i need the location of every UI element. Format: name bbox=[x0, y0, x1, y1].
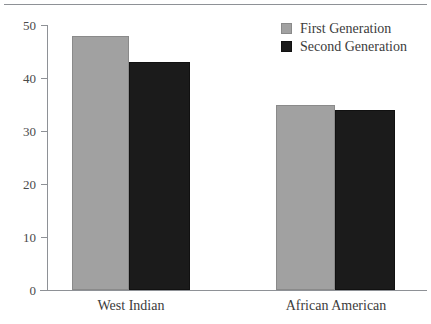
top-divider-rule bbox=[4, 4, 427, 5]
x-axis-label-african-american: African American bbox=[265, 298, 407, 314]
legend: First Generation Second Generation bbox=[281, 19, 407, 55]
y-axis-tick-50 bbox=[41, 25, 48, 26]
legend-label-first-generation: First Generation bbox=[300, 21, 391, 36]
bar-african-american-first-generation[interactable] bbox=[276, 105, 335, 290]
y-axis-label-10: 10 bbox=[0, 231, 36, 244]
legend-item-first-generation[interactable]: First Generation bbox=[281, 19, 407, 37]
y-axis-label-20: 20 bbox=[0, 178, 36, 191]
bar-chart: 0 10 20 30 40 50 West Indian African Ame… bbox=[0, 0, 431, 324]
bar-west-indian-first-generation[interactable] bbox=[72, 36, 129, 290]
y-axis-tick-40 bbox=[41, 78, 48, 79]
x-axis-label-west-indian: West Indian bbox=[61, 298, 201, 314]
bar-west-indian-second-generation[interactable] bbox=[129, 62, 190, 290]
legend-item-second-generation[interactable]: Second Generation bbox=[281, 37, 407, 55]
y-axis-label-40: 40 bbox=[0, 72, 36, 85]
legend-swatch-second-generation-icon bbox=[281, 41, 292, 52]
y-axis-tick-10 bbox=[41, 237, 48, 238]
y-axis-tick-20 bbox=[41, 184, 48, 185]
y-axis-tick-0 bbox=[41, 290, 48, 291]
legend-swatch-first-generation-icon bbox=[281, 23, 292, 34]
bar-african-american-second-generation[interactable] bbox=[335, 110, 395, 290]
y-axis-label-30: 30 bbox=[0, 125, 36, 138]
plot-area bbox=[48, 25, 427, 290]
legend-label-second-generation: Second Generation bbox=[300, 39, 407, 54]
y-axis-tick-30 bbox=[41, 131, 48, 132]
y-axis-label-0: 0 bbox=[0, 284, 36, 297]
x-axis-line bbox=[40, 290, 427, 291]
y-axis-label-50: 50 bbox=[0, 19, 36, 32]
